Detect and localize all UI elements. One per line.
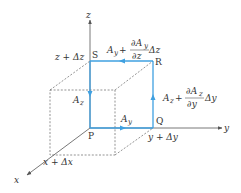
curl-circulation-diagram: z y x S R Q P z + Δz y + Δy x + Δx A y A… xyxy=(0,0,241,193)
svg-text:∂A: ∂A xyxy=(186,86,198,96)
svg-text:Δz: Δz xyxy=(148,45,160,55)
y-axis-label: y xyxy=(223,123,230,133)
arrow-right-icon xyxy=(120,126,126,131)
svg-text:+: + xyxy=(119,45,127,55)
x-plus-dx-label: x + Δx xyxy=(43,157,73,167)
svg-text:A: A xyxy=(162,93,170,103)
svg-text:z: z xyxy=(169,97,174,105)
label-QR: A z + ∂A z ∂y Δy xyxy=(162,86,217,109)
svg-text:A: A xyxy=(106,45,114,55)
z-plus-dz-label: z + Δz xyxy=(54,52,85,62)
svg-text:z: z xyxy=(198,90,203,98)
point-R: R xyxy=(155,57,162,67)
svg-text:+: + xyxy=(175,93,183,103)
svg-text:∂z: ∂z xyxy=(132,51,142,61)
svg-text:∂y: ∂y xyxy=(187,99,198,109)
svg-text:Δy: Δy xyxy=(204,93,217,103)
point-S: S xyxy=(92,50,98,60)
svg-text:y: y xyxy=(127,118,133,126)
svg-text:A: A xyxy=(72,95,80,105)
arrow-up-icon xyxy=(151,94,156,100)
point-Q: Q xyxy=(156,116,163,126)
y-plus-dy-label: y + Δy xyxy=(147,132,179,142)
x-axis-label: x xyxy=(14,175,19,185)
svg-text:∂A: ∂A xyxy=(131,38,143,48)
point-P: P xyxy=(88,131,94,141)
svg-text:A: A xyxy=(120,114,128,124)
label-RS: A y + ∂A y ∂z Δz xyxy=(106,38,160,61)
arrow-down-icon xyxy=(88,91,93,97)
axes xyxy=(27,20,222,175)
arrow-left-icon xyxy=(119,59,125,64)
label-SP: A z xyxy=(72,95,84,107)
z-axis-label: z xyxy=(85,10,91,20)
x-axis xyxy=(27,128,90,175)
label-PQ: A y xyxy=(120,114,133,126)
dashed-cube xyxy=(50,61,153,155)
svg-text:z: z xyxy=(79,99,84,107)
